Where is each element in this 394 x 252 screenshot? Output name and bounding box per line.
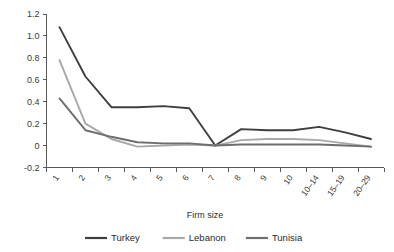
line-chart: 1.21.00.80.60.40.20-0.2 1234567891010–14… xyxy=(0,0,394,252)
chart-container: 1.21.00.80.60.40.20-0.2 1234567891010–14… xyxy=(0,0,394,252)
x-tick-label: 15–19 xyxy=(325,173,347,198)
y-tick-label: 1.0 xyxy=(27,31,40,41)
y-tick-label: 0.4 xyxy=(27,97,40,107)
x-tick-label: 10 xyxy=(281,173,295,187)
y-tick-label: 0.2 xyxy=(27,119,40,129)
y-tick-label: 0.8 xyxy=(27,53,40,63)
y-tick-label: -0.2 xyxy=(24,163,40,173)
y-tick-label: 1.2 xyxy=(27,9,40,19)
legend-label-tunisia: Tunisia xyxy=(272,232,303,243)
x-tick-label: 3 xyxy=(102,173,113,183)
y-tick-group: 1.21.00.80.60.40.20-0.2 xyxy=(24,9,47,173)
x-tick-label: 4 xyxy=(128,173,139,183)
x-tick-label: 1 xyxy=(50,173,61,183)
legend-label-turkey: Turkey xyxy=(111,232,140,243)
x-tick-label: 8 xyxy=(232,173,243,183)
y-tick-label: 0 xyxy=(34,141,39,151)
x-tick-label: 2 xyxy=(76,173,87,183)
y-tick-label: 0.6 xyxy=(27,75,40,85)
x-tick-label: 10–14 xyxy=(299,173,321,198)
chart-legend: TurkeyLebanonTunisia xyxy=(85,232,303,243)
x-tick-label: 20–29 xyxy=(351,173,373,198)
legend-label-lebanon: Lebanon xyxy=(189,232,226,243)
x-tick-group: 1234567891010–1415–1920–29 xyxy=(47,168,385,199)
x-tick-label: 5 xyxy=(154,173,165,183)
x-axis-title: Firm size xyxy=(187,210,224,220)
x-tick-label: 6 xyxy=(180,173,191,183)
x-tick-label: 7 xyxy=(206,173,217,183)
x-tick-label: 9 xyxy=(258,173,269,183)
